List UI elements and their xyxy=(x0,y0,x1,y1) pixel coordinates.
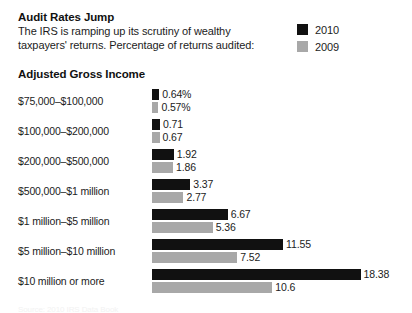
bar-value-label: 0.71 xyxy=(160,118,183,130)
chart-row: $200,000–$500,0001.921.86 xyxy=(0,146,412,176)
bar-line: 10.6 xyxy=(152,282,412,293)
page-title: Audit Rates Jump xyxy=(18,10,298,24)
chart-legend: 2010 2009 xyxy=(297,22,365,56)
bar-2009 xyxy=(152,132,160,143)
category-label: $200,000–$500,000 xyxy=(18,155,109,167)
bar-group: 1.921.86 xyxy=(152,149,412,175)
chart-subtitle-line-2: taxpayers' returns. Percentage of return… xyxy=(18,39,298,53)
category-label: $100,000–$200,000 xyxy=(18,125,109,137)
bar-2009 xyxy=(152,192,183,203)
plot-area: $75,000–$100,0000.64%0.57%$100,000–$200,… xyxy=(0,86,412,296)
bar-group: 3.372.77 xyxy=(152,179,412,205)
chart-subtitle: The IRS is ramping up its scrutiny of we… xyxy=(18,25,298,52)
category-label: $1 million–$5 million xyxy=(18,215,109,227)
bar-2010 xyxy=(152,179,190,190)
bar-line: 0.57% xyxy=(152,102,412,113)
bar-2010 xyxy=(152,209,228,220)
bar-2009 xyxy=(152,252,237,263)
category-label: $10 million or more xyxy=(18,275,104,287)
legend-item-2010: 2010 xyxy=(297,22,365,37)
bar-group: 18.3810.6 xyxy=(152,269,412,295)
bar-line: 2.77 xyxy=(152,192,412,203)
chart-row: $75,000–$100,0000.64%0.57% xyxy=(0,86,412,116)
bar-value-label: 3.37 xyxy=(190,178,213,190)
bar-line: 0.64% xyxy=(152,89,412,100)
legend-swatch-2009 xyxy=(297,41,308,52)
bar-value-label: 6.67 xyxy=(228,208,251,220)
bar-2010 xyxy=(152,119,160,130)
bar-value-label: 0.67 xyxy=(160,131,183,143)
bar-value-label: 18.38 xyxy=(361,268,390,280)
bar-line: 7.52 xyxy=(152,252,412,263)
bar-line: 5.36 xyxy=(152,222,412,233)
audit-rates-chart: Audit Rates Jump The IRS is ramping up i… xyxy=(0,0,412,313)
bar-line: 1.92 xyxy=(152,149,412,160)
chart-subtitle-line-1: The IRS is ramping up its scrutiny of we… xyxy=(18,25,298,39)
category-label: $75,000–$100,000 xyxy=(18,95,103,107)
bar-2010 xyxy=(152,239,283,250)
bar-2010 xyxy=(152,89,159,100)
category-label: $5 million–$10 million xyxy=(18,245,115,257)
category-label: $500,000–$1 million xyxy=(18,185,109,197)
bar-value-label: 10.6 xyxy=(272,281,295,293)
bar-value-label: 0.57% xyxy=(158,101,190,113)
bar-value-label: 11.55 xyxy=(283,238,311,250)
axis-heading: Adjusted Gross Income xyxy=(18,68,145,80)
bar-value-label: 2.77 xyxy=(183,191,206,203)
chart-row: $10 million or more18.3810.6 xyxy=(0,266,412,296)
legend-label-2009: 2009 xyxy=(315,41,339,53)
chart-row: $500,000–$1 million3.372.77 xyxy=(0,176,412,206)
bar-group: 6.675.36 xyxy=(152,209,412,235)
legend-item-2009: 2009 xyxy=(297,39,365,54)
bar-group: 0.64%0.57% xyxy=(152,89,412,115)
chart-row: $100,000–$200,0000.710.67 xyxy=(0,116,412,146)
bar-value-label: 1.92 xyxy=(174,148,197,160)
bar-line: 0.71 xyxy=(152,119,412,130)
chart-source: Source: 2010 IRS Data Book xyxy=(18,305,118,313)
bar-value-label: 0.64% xyxy=(159,88,191,100)
bar-2010 xyxy=(152,149,174,160)
bar-value-label: 1.86 xyxy=(173,161,196,173)
bar-line: 0.67 xyxy=(152,132,412,143)
bar-2010 xyxy=(152,269,361,280)
bar-2009 xyxy=(152,222,213,233)
bar-group: 0.710.67 xyxy=(152,119,412,145)
bar-2009 xyxy=(152,162,173,173)
legend-swatch-2010 xyxy=(297,24,308,35)
bar-2009 xyxy=(152,282,272,293)
chart-row: $5 million–$10 million11.557.52 xyxy=(0,236,412,266)
bar-value-label: 5.36 xyxy=(213,221,236,233)
bar-group: 11.557.52 xyxy=(152,239,412,265)
bar-line: 18.38 xyxy=(152,269,412,280)
bar-line: 6.67 xyxy=(152,209,412,220)
bar-line: 11.55 xyxy=(152,239,412,250)
bar-line: 3.37 xyxy=(152,179,412,190)
bar-line: 1.86 xyxy=(152,162,412,173)
legend-label-2010: 2010 xyxy=(315,24,339,36)
chart-header: Audit Rates Jump The IRS is ramping up i… xyxy=(18,10,298,52)
bar-value-label: 7.52 xyxy=(237,251,260,263)
chart-row: $1 million–$5 million6.675.36 xyxy=(0,206,412,236)
